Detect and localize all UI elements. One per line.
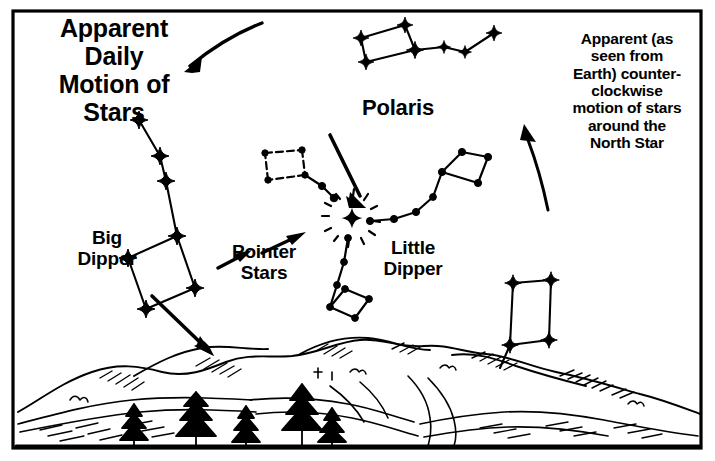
star-dot: [366, 296, 373, 303]
star-dot: [345, 235, 352, 242]
diagram-canvas: Apparent Daily Motion of Stars Apparent …: [0, 0, 715, 461]
star-dot: [327, 304, 334, 311]
star-dot: [318, 182, 325, 189]
rotation-note-text: Apparent (as seen from Earth) counter- c…: [552, 30, 702, 152]
star-dot: [458, 148, 465, 155]
star-dot: [265, 177, 271, 183]
star-dot: [262, 150, 268, 156]
little-dipper-label: Little Dipper: [358, 238, 468, 279]
page-title: Apparent Daily Motion of Stars: [16, 14, 212, 126]
star-dot: [330, 194, 338, 202]
star-dot: [302, 172, 308, 178]
star-dot: [412, 208, 419, 215]
star-dot: [341, 259, 348, 266]
star-dot: [390, 215, 397, 222]
star-dot: [334, 282, 341, 289]
star-dot: [352, 315, 359, 322]
big-dipper-label: Big Dipper: [52, 228, 162, 269]
star-dot: [438, 168, 445, 175]
star-dot: [299, 147, 305, 153]
star-dot: [342, 286, 349, 293]
polaris-label: Polaris: [338, 96, 458, 119]
star-dot: [366, 217, 373, 224]
pointer-stars-label: Pointer Stars: [208, 242, 320, 283]
star-dot: [484, 153, 491, 160]
star-dot: [474, 179, 481, 186]
star-dot: [430, 194, 437, 201]
